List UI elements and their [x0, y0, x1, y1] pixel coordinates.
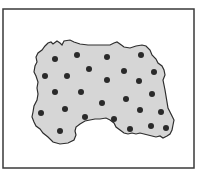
dot-marker: [64, 73, 70, 79]
dot-marker: [52, 56, 58, 62]
dot-marker: [151, 69, 157, 75]
dot-marker: [38, 110, 44, 116]
dot-marker: [104, 77, 110, 83]
dot-marker: [137, 107, 143, 113]
diagram-canvas: [0, 0, 202, 173]
dot-marker: [138, 52, 144, 58]
dot-marker: [42, 73, 48, 79]
dot-marker: [78, 89, 84, 95]
dot-marker: [82, 114, 88, 120]
dot-marker: [149, 91, 155, 97]
dot-marker: [136, 78, 142, 84]
dot-marker: [121, 68, 127, 74]
dot-marker: [52, 89, 58, 95]
dot-marker: [57, 128, 63, 134]
dot-marker: [158, 109, 164, 115]
dot-marker: [123, 96, 129, 102]
dot-marker: [74, 52, 80, 58]
dot-marker: [62, 106, 68, 112]
dot-marker: [148, 123, 154, 129]
dot-marker: [163, 125, 169, 131]
dot-marker: [86, 66, 92, 72]
dot-marker: [99, 100, 105, 106]
dot-marker: [111, 116, 117, 122]
dot-marker: [127, 126, 133, 132]
dot-marker: [104, 54, 110, 60]
